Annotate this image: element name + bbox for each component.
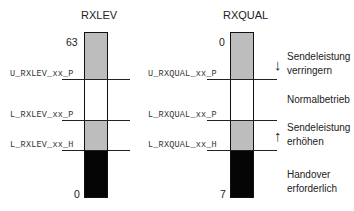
rxlev-threshold-label-lower-p: L_RXLEV_xx_P [10,110,74,120]
rxqual-threshold-label-upper-p: U_RXQUAL_xx_P [148,69,217,79]
rxlev-title: RXLEV [81,9,117,21]
zone-label-handover-line2: erforderlich [287,182,337,196]
rxqual-zone-reduce-power [231,33,253,80]
rxlev-zone-reduce-power [85,33,107,80]
rxlev-bar [84,32,108,198]
zone-label-reduce-power: Sendeleistung verringern [287,50,350,78]
rxqual-top-value: 0 [219,36,225,48]
rxlev-threshold-label-upper-p: U_RXLEV_xx_P [10,69,74,79]
rxlev-threshold-line-lower-h [62,150,130,151]
zone-label-increase-power: Sendeleistung erhöhen [287,121,350,149]
zone-label-increase-power-line2: erhöhen [287,135,350,149]
rxlev-threshold-line-lower-p [62,120,130,121]
rxqual-zone-normal [231,80,253,121]
rxqual-threshold-label-lower-p: L_RXQUAL_xx_P [148,110,217,120]
zone-label-increase-power-line1: Sendeleistung [287,121,350,135]
rxlev-zone-handover [85,151,107,197]
zone-label-reduce-power-line2: verringern [287,64,350,78]
rxqual-threshold-line-upper-p [207,79,277,80]
rxlev-zone-normal [85,80,107,121]
arrow-up-icon: ↑ [274,127,282,144]
rxqual-threshold-line-lower-h [207,150,277,151]
rxlev-threshold-line-upper-p [62,79,130,80]
arrow-down-icon: ↓ [274,56,282,73]
rxqual-zone-increase-power [231,121,253,151]
rxlev-bottom-value: 0 [74,188,80,200]
rxlev-top-value: 63 [66,36,78,48]
zone-label-handover-line1: Handover [287,168,337,182]
rxqual-bottom-value: 7 [220,188,226,200]
rxqual-threshold-line-lower-p [207,120,277,121]
rxqual-bar [230,32,254,198]
rxlev-threshold-label-lower-h: L_RXLEV_xx_H [10,140,74,150]
zone-label-handover: Handover erforderlich [287,168,337,196]
rxqual-threshold-label-lower-h: L_RXQUAL_xx_H [148,140,217,150]
zone-label-reduce-power-line1: Sendeleistung [287,50,350,64]
rxlev-zone-increase-power [85,121,107,151]
zone-label-normal: Normalbetrieb [287,93,350,107]
rxqual-title: RXQUAL [223,9,268,21]
rxqual-zone-handover [231,151,253,197]
